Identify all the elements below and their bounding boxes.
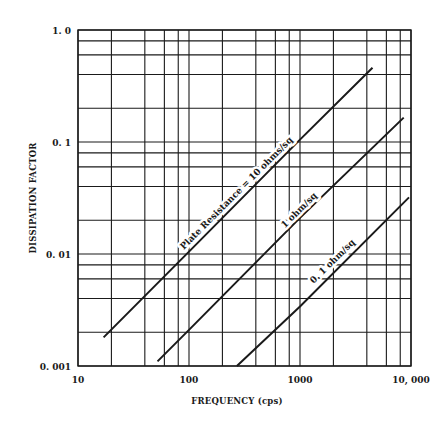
series-line-2 <box>237 197 409 366</box>
x-tick-label: 10, 000 <box>392 375 430 386</box>
y-tick-labels: 0. 0010. 010. 11. 0 <box>40 26 71 372</box>
svg-text:0. 1 ohm/sq: 0. 1 ohm/sq <box>308 237 357 286</box>
chart: Plate Resistance = 10 ohms/sqPlate Resis… <box>0 0 446 426</box>
series-label-0: Plate Resistance = 10 ohms/sqPlate Resis… <box>178 134 295 251</box>
series-label-2: 0. 1 ohm/sq0. 1 ohm/sq <box>308 237 357 286</box>
y-axis-title: DISSIPATION FACTOR <box>28 142 38 254</box>
y-tick-label: 0. 01 <box>46 250 71 260</box>
y-tick-label: 1. 0 <box>52 26 71 36</box>
x-tick-labels: 10100100010, 000 <box>72 375 430 386</box>
series-labels: Plate Resistance = 10 ohms/sqPlate Resis… <box>178 134 357 285</box>
series-label-1: 1 ohm/sq1 ohm/sq <box>279 190 319 230</box>
x-tick-label: 100 <box>180 375 199 385</box>
x-axis-title: FREQUENCY (cps) <box>191 396 282 406</box>
x-tick-label: 10 <box>72 375 85 385</box>
svg-text:1 ohm/sq: 1 ohm/sq <box>279 190 319 230</box>
y-tick-label: 0. 1 <box>52 138 71 148</box>
y-tick-label: 0. 001 <box>40 362 71 372</box>
x-tick-label: 1000 <box>287 375 312 385</box>
svg-text:Plate Resistance = 10 ohms/sq: Plate Resistance = 10 ohms/sq <box>178 134 295 251</box>
